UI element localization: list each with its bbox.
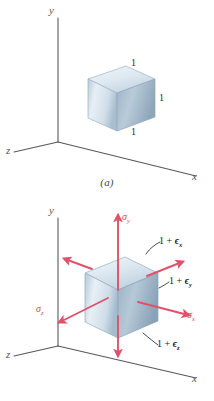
axis-label-z-b: z xyxy=(6,349,10,360)
strain-z-subscript: z xyxy=(177,344,180,351)
z-axis-b xyxy=(14,346,58,356)
x-axis-a xyxy=(58,142,196,176)
figure-a-graphics xyxy=(0,0,214,200)
axis-label-z-a: z xyxy=(6,145,10,156)
strain-x-prefix: 1 + xyxy=(159,235,175,246)
figure-caption-a: (a) xyxy=(0,176,214,188)
axis-label-y-a: y xyxy=(49,5,54,16)
dimension-label-top-a: 1 xyxy=(131,58,136,68)
figure-page: y x z 1 1 1 (a) xyxy=(0,0,214,401)
arrow-sigma-x-right-top xyxy=(147,262,182,276)
figure-b: y x z σy σx σz 1 + ϵx 1 + ϵy 1 + ϵz (b) xyxy=(0,198,214,401)
axis-label-y-b: y xyxy=(49,205,54,216)
figure-a: y x z 1 1 1 (a) xyxy=(0,0,214,200)
sigma-z-subscript: z xyxy=(41,309,44,316)
sigma-x-subscript: x xyxy=(192,315,195,322)
strain-label-y: 1 + ϵy xyxy=(169,276,192,289)
dimension-label-bottom-a: 1 xyxy=(131,127,136,137)
strain-y-prefix: 1 + xyxy=(169,275,185,286)
z-axis-a xyxy=(14,142,58,152)
strain-label-z: 1 + ϵz xyxy=(157,339,179,352)
stress-label-sigma-y: σy xyxy=(122,212,130,225)
figure-b-graphics xyxy=(0,198,214,401)
strain-label-x: 1 + ϵx xyxy=(159,236,182,249)
stress-label-sigma-x: σx xyxy=(187,310,195,323)
axis-label-x-b: x xyxy=(192,373,197,384)
leader-strain-y xyxy=(159,282,169,288)
strain-z-prefix: 1 + xyxy=(157,338,173,349)
arrow-sigma-z-back xyxy=(65,259,92,269)
dimension-label-right-a: 1 xyxy=(159,93,164,103)
stress-arrows-back-b xyxy=(65,259,92,269)
unit-cube-a xyxy=(88,66,155,131)
sigma-y-subscript: y xyxy=(127,217,130,224)
strain-x-subscript: x xyxy=(179,241,182,248)
deformed-cube-b xyxy=(85,257,158,338)
leader-strain-x xyxy=(146,242,160,254)
stress-label-sigma-z: σz xyxy=(36,304,43,317)
strain-y-subscript: y xyxy=(189,281,192,288)
leader-strain-z xyxy=(143,333,158,345)
